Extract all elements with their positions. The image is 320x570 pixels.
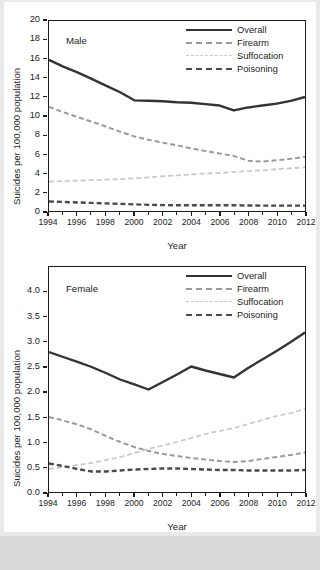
legend-item-overall: Overall [186, 24, 306, 37]
x-tick-label: 2002 [147, 218, 179, 227]
series-line-poisoning [49, 464, 305, 472]
y-tick-label: 16 [6, 54, 40, 63]
y-tick-label: 14 [6, 73, 40, 82]
x-tick-mark [219, 493, 220, 497]
series-line-overall [49, 332, 305, 389]
y-tick-mark [43, 316, 47, 317]
x-tick-label: 2010 [261, 218, 293, 227]
figure-page: Suicides per 100,000 population Male Ove… [0, 0, 320, 570]
x-tick-mark [176, 493, 177, 496]
y-tick-label: 8 [6, 130, 40, 139]
legend-item-firearm: Firearm [186, 283, 306, 296]
legend-label-poisoning: Poisoning [237, 63, 278, 76]
x-tick-label: 2012 [290, 499, 320, 508]
x-tick-mark [76, 212, 77, 216]
y-tick-mark [43, 492, 47, 493]
y-tick-mark [43, 77, 47, 78]
x-tick-mark [191, 493, 192, 497]
x-tick-label: 1996 [61, 218, 93, 227]
y-tick-label: 4.0 [6, 286, 40, 295]
x-tick-mark [90, 493, 91, 496]
x-tick-mark [148, 212, 149, 215]
x-tick-mark [162, 493, 163, 497]
panel-tag-male: Male [66, 35, 87, 46]
x-tick-label: 2006 [204, 499, 236, 508]
x-tick-mark [291, 212, 292, 215]
legend-label-suffocation: Suffocation [237, 296, 283, 309]
y-tick-mark [43, 291, 47, 292]
x-tick-label: 1998 [89, 218, 121, 227]
x-tick-mark [90, 212, 91, 215]
y-tick-label: 18 [6, 34, 40, 43]
legend-item-suffocation: Suffocation [186, 50, 306, 63]
x-tick-mark [162, 212, 163, 216]
bottom-band [0, 536, 320, 570]
x-tick-label: 1994 [32, 499, 64, 508]
x-tick-label: 2000 [118, 499, 150, 508]
x-tick-mark [133, 212, 134, 216]
legend-item-overall: Overall [186, 270, 306, 283]
x-tick-mark [47, 493, 48, 497]
y-tick-mark [43, 115, 47, 116]
x-tick-mark [219, 212, 220, 216]
legend-label-firearm: Firearm [237, 37, 269, 50]
y-tick-mark [43, 211, 47, 212]
x-tick-mark [305, 493, 306, 497]
legend-male: OverallFirearmSuffocationPoisoning [186, 24, 306, 76]
legend-item-suffocation: Suffocation [186, 296, 306, 309]
x-tick-mark [305, 212, 306, 216]
x-tick-label: 1994 [32, 218, 64, 227]
legend-label-overall: Overall [237, 24, 266, 37]
series-line-firearm [49, 107, 305, 162]
x-tick-label: 2004 [175, 499, 207, 508]
x-tick-mark [277, 493, 278, 497]
x-tick-label: 1998 [89, 499, 121, 508]
series-line-poisoning [49, 202, 305, 206]
chart-panel-female: Suicides per 100,000 population Female O… [0, 262, 320, 532]
x-tick-label: 2008 [233, 499, 265, 508]
x-tick-label: 2000 [118, 218, 150, 227]
y-tick-label: 6 [6, 150, 40, 159]
x-tick-label: 2002 [147, 499, 179, 508]
legend-item-poisoning: Poisoning [186, 63, 306, 76]
x-tick-label: 2008 [233, 218, 265, 227]
legend-item-poisoning: Poisoning [186, 309, 306, 322]
y-tick-mark [43, 154, 47, 155]
y-tick-label: 1.0 [6, 438, 40, 447]
y-tick-mark [43, 173, 47, 174]
y-tick-mark [43, 192, 47, 193]
y-tick-mark [43, 58, 47, 59]
y-tick-label: 2.5 [6, 362, 40, 371]
y-tick-label: 1.5 [6, 413, 40, 422]
panel-tag-female: Female [66, 283, 98, 294]
y-tick-label: 2 [6, 188, 40, 197]
x-tick-mark [234, 212, 235, 215]
y-tick-mark [43, 39, 47, 40]
legend-female: OverallFirearmSuffocationPoisoning [186, 270, 306, 322]
x-axis-label-male: Year [48, 240, 306, 251]
x-tick-label: 1996 [61, 499, 93, 508]
chart-panel-male: Suicides per 100,000 population Male Ove… [0, 0, 320, 258]
x-tick-mark [176, 212, 177, 215]
x-tick-mark [248, 212, 249, 216]
x-tick-mark [105, 212, 106, 216]
legend-item-firearm: Firearm [186, 37, 306, 50]
x-tick-mark [191, 212, 192, 216]
legend-label-firearm: Firearm [237, 283, 269, 296]
x-tick-mark [47, 212, 48, 216]
x-tick-mark [234, 493, 235, 496]
y-tick-mark [43, 417, 47, 418]
x-tick-mark [148, 493, 149, 496]
legend-label-poisoning: Poisoning [237, 309, 278, 322]
legend-label-suffocation: Suffocation [237, 50, 283, 63]
x-tick-label: 2012 [290, 218, 320, 227]
x-tick-mark [119, 493, 120, 496]
x-tick-label: 2010 [261, 499, 293, 508]
y-tick-mark [43, 19, 47, 20]
y-tick-label: 4 [6, 169, 40, 178]
y-tick-label: 3.5 [6, 312, 40, 321]
y-tick-label: 10 [6, 111, 40, 120]
x-tick-mark [205, 493, 206, 496]
series-line-firearm [49, 417, 305, 462]
x-tick-mark [76, 493, 77, 497]
